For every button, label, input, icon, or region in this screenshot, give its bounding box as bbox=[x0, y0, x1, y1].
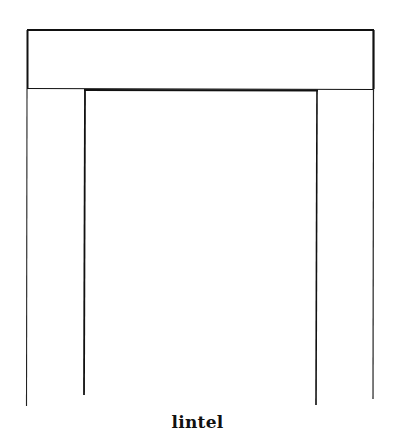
right-jamb-inner bbox=[316, 90, 317, 405]
diagram-caption: lintel bbox=[0, 412, 395, 432]
opening-head bbox=[84, 90, 318, 91]
right-jamb-outer bbox=[373, 89, 374, 399]
left-jamb-inner bbox=[84, 89, 85, 395]
lintel-diagram bbox=[0, 0, 395, 439]
lintel-beam bbox=[27, 30, 374, 90]
left-jamb-outer bbox=[27, 89, 28, 406]
